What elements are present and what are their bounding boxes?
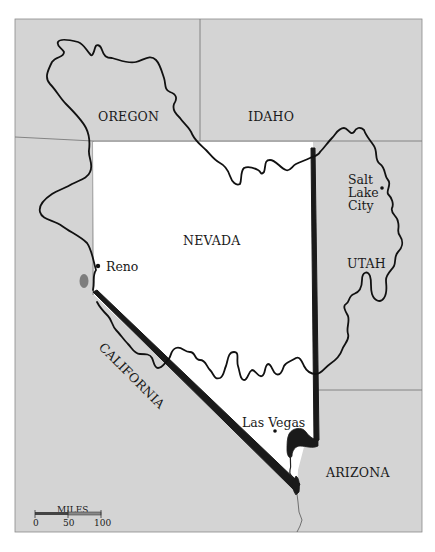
scale-bar-segment-2 (68, 512, 101, 515)
label-las-vegas: Las Vegas (242, 415, 305, 430)
label-arizona: ARIZONA (325, 465, 390, 480)
scale-bar-label-50: 50 (63, 518, 75, 528)
reno-dot (96, 264, 100, 268)
label-reno: Reno (106, 259, 138, 274)
great-basin-map: OREGON IDAHO NEVADA UTAH ARIZONA CALIFOR… (0, 0, 435, 552)
label-salt-lake-city-line3: City (348, 198, 375, 213)
lake-tahoe (80, 274, 89, 288)
label-oregon: OREGON (98, 109, 159, 124)
label-nevada: NEVADA (183, 233, 241, 248)
scale-bar-label-0: 0 (33, 518, 39, 528)
salt-lake-city-dot (380, 186, 384, 190)
label-utah: UTAH (347, 256, 386, 271)
scale-bar-segment-1 (35, 512, 68, 515)
label-idaho: IDAHO (248, 109, 294, 124)
scale-bar-label-100: 100 (94, 518, 111, 528)
